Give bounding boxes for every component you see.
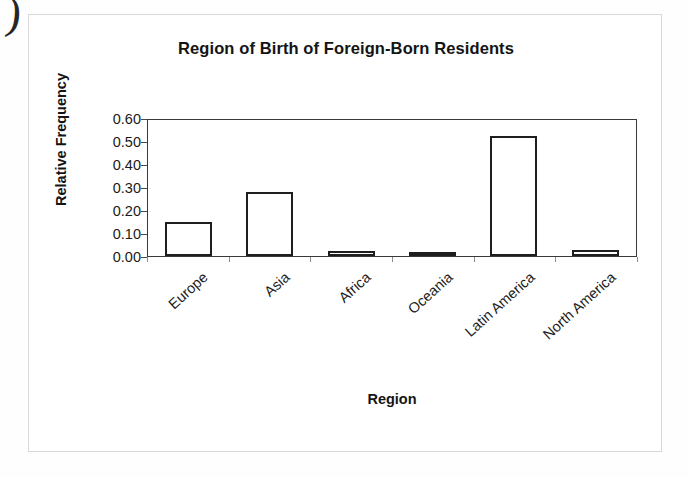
page-margin-mark: ): [3, 0, 24, 40]
x-axis-tick-mark: [474, 257, 475, 262]
bar-oceania[interactable]: [409, 252, 456, 256]
plot-area: [147, 119, 637, 257]
bar-asia[interactable]: [246, 192, 293, 256]
y-axis-tick-label: 0.20: [113, 203, 141, 219]
bar-slot: [311, 120, 392, 256]
x-axis-tick-mark: [147, 257, 148, 262]
y-axis-tick-label: 0.30: [113, 180, 141, 196]
bar-slot: [555, 120, 636, 256]
bar-north-america[interactable]: [572, 250, 619, 256]
x-axis-category-labels: EuropeAsiaAfricaOceaniaLatin AmericaNort…: [147, 263, 637, 373]
y-axis-title: Relative Frequency: [53, 76, 69, 206]
x-axis-title: Region: [147, 391, 637, 407]
bar-slot: [392, 120, 473, 256]
y-axis-tick-label: 0.40: [113, 157, 141, 173]
y-axis-tick-label: 0.10: [113, 226, 141, 242]
bar-latin-america[interactable]: [490, 136, 537, 256]
x-axis-tick-mark: [392, 257, 393, 262]
bar-europe[interactable]: [165, 222, 212, 257]
bar-slot: [473, 120, 554, 256]
bar-slot: [148, 120, 229, 256]
y-axis-tick-label: 0.00: [113, 249, 141, 265]
scanned-page: ) Region of Birth of Foreign-Born Reside…: [0, 0, 688, 477]
x-axis-tick-mark: [637, 257, 638, 262]
chart-title: Region of Birth of Foreign-Born Resident…: [29, 39, 663, 58]
figure-frame: Region of Birth of Foreign-Born Resident…: [28, 14, 662, 452]
x-axis-tick-mark: [310, 257, 311, 262]
x-axis-tick-mark: [555, 257, 556, 262]
bar-africa[interactable]: [328, 251, 375, 256]
bar-slot: [229, 120, 310, 256]
y-axis-tick-label: 0.60: [113, 111, 141, 127]
bars-layer: [148, 120, 636, 256]
x-axis-tick-mark: [229, 257, 230, 262]
y-axis-tick-labels: 0.600.500.400.300.200.100.00: [89, 119, 141, 257]
y-axis-tick-label: 0.50: [113, 134, 141, 150]
